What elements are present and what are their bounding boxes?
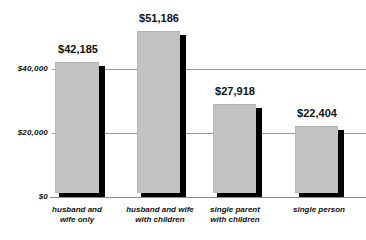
bar-value-label: $42,185 — [43, 43, 113, 55]
bar-value-label: $27,918 — [200, 85, 270, 97]
y-tick-label-40000: $40,000 — [0, 64, 48, 73]
y-tick-label-0: $0 — [0, 192, 48, 201]
category-label-single-person: single person — [275, 205, 363, 215]
bar-shadow-bottom — [217, 193, 262, 197]
bar-shadow-bottom — [299, 193, 344, 197]
bar-shadow-bottom — [59, 193, 105, 197]
category-label-line-1: single person — [275, 205, 363, 215]
category-label-line-2: wife only — [32, 215, 122, 225]
bar-chart: $40,000 $20,000 $0 $42,185 husband and w… — [0, 0, 366, 240]
bar-single-person[interactable] — [295, 126, 338, 193]
bar-husband-and-wife-with-children[interactable] — [137, 31, 180, 193]
bar-single-parent-with-children[interactable] — [213, 104, 256, 193]
axis-baseline-0 — [50, 197, 366, 198]
bar-shadow-side — [338, 130, 344, 197]
bar-shadow-side — [180, 35, 186, 197]
category-label-line-2: with children — [190, 215, 280, 225]
bar-value-label: $22,404 — [282, 107, 352, 119]
category-label-single-parent-with-children: single parent with children — [190, 205, 280, 225]
bar-shadow-side — [99, 66, 105, 197]
bar-husband-and-wife-only[interactable] — [55, 62, 99, 193]
plot-area: $40,000 $20,000 $0 $42,185 husband and w… — [0, 0, 366, 240]
bar-value-label: $51,186 — [124, 12, 194, 24]
bar-shadow-bottom — [141, 193, 186, 197]
category-label-husband-and-wife-only: husband and wife only — [32, 205, 122, 225]
category-label-line-1: single parent — [190, 205, 280, 215]
bar-shadow-side — [256, 108, 262, 197]
y-tick-label-20000: $20,000 — [0, 128, 48, 137]
category-label-line-1: husband and — [32, 205, 122, 215]
